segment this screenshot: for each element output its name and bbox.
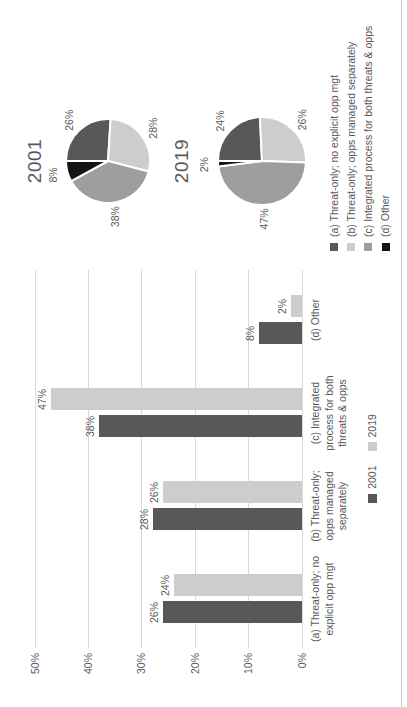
legend-label-0: (a) Threat-only; no explicit opp mgt xyxy=(328,75,341,237)
chart-canvas: 0%10%20%30%40%50%26%28%38%8%24%26%47%2%(… xyxy=(0,0,407,707)
legend-item-2: (c) Integrated process for both threats … xyxy=(361,26,375,251)
pie-legend: (a) Threat-only; no explicit opp mgt(b) … xyxy=(0,0,407,707)
rotated-chart-figure: 0%10%20%30%40%50%26%28%38%8%24%26%47%2%(… xyxy=(0,0,407,707)
legend-swatch-1 xyxy=(347,243,355,251)
legend-label-1: (b) Threat-only; opps managed separately xyxy=(345,42,358,237)
legend-label-2: (c) Integrated process for both threats … xyxy=(362,26,375,237)
legend-swatch-0 xyxy=(330,243,338,251)
legend-item-1: (b) Threat-only; opps managed separately xyxy=(344,42,358,251)
legend-item-3: (d) Other xyxy=(379,195,393,251)
figure-border-line xyxy=(401,0,402,707)
legend-swatch-2 xyxy=(364,243,372,251)
legend-swatch-3 xyxy=(382,243,390,251)
legend-item-0: (a) Threat-only; no explicit opp mgt xyxy=(327,75,341,251)
legend-label-3: (d) Other xyxy=(379,195,392,237)
